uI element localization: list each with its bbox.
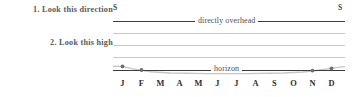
data-point-dec bbox=[330, 66, 334, 70]
month-tick-0: J bbox=[116, 79, 130, 88]
month-tick-9: O bbox=[287, 79, 301, 88]
month-tick-11: D bbox=[325, 79, 339, 88]
month-tick-5: J bbox=[211, 79, 225, 88]
data-point-feb bbox=[140, 68, 144, 72]
month-tick-8: S bbox=[268, 79, 282, 88]
month-tick-3: A bbox=[173, 79, 187, 88]
instruction-look-high: 2. Look this high bbox=[50, 38, 113, 47]
month-tick-7: A bbox=[249, 79, 263, 88]
label-directly-overhead: directly overhead bbox=[195, 16, 258, 25]
month-tick-2: M bbox=[154, 79, 168, 88]
data-point-nov bbox=[311, 69, 315, 73]
month-tick-10: N bbox=[306, 79, 320, 88]
month-tick-6: J bbox=[230, 79, 244, 88]
instruction-look-direction: 1. Look this direction bbox=[33, 5, 113, 14]
data-point-jan bbox=[121, 65, 125, 69]
plot-area: S S directly overhead horizon JFMAMJJASO… bbox=[113, 0, 345, 97]
label-horizon: horizon bbox=[211, 64, 242, 73]
month-axis: JFMAMJJASOND bbox=[113, 79, 345, 93]
month-tick-4: M bbox=[192, 79, 206, 88]
sky-visibility-chart: 1. Look this direction 2. Look this high… bbox=[0, 0, 357, 97]
month-tick-1: F bbox=[135, 79, 149, 88]
